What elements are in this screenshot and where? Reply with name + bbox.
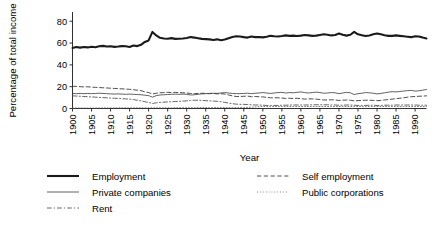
legend-label-private-companies: Private companies (92, 187, 171, 198)
x-tick-label: 1945 (239, 115, 249, 135)
x-tick-label: 1940 (220, 115, 230, 135)
x-tick-label: 1965 (315, 115, 325, 135)
x-tick-label: 1925 (163, 115, 173, 135)
legend-label-employment: Employment (92, 171, 146, 182)
x-tick-label: 1980 (372, 115, 382, 135)
x-tick-label: 1990 (410, 115, 420, 135)
x-axis-title: Year (240, 152, 260, 163)
x-tick-label: 1935 (201, 115, 211, 135)
x-tick-label: 1975 (353, 115, 363, 135)
chart-figure: 0204060801900190519101915192019251930193… (0, 0, 442, 234)
x-tick-label: 1985 (391, 115, 401, 135)
x-tick-label: 1955 (277, 115, 287, 135)
legend-label-rent: Rent (92, 203, 113, 214)
y-tick-label: 20 (57, 82, 67, 92)
y-tick-label: 0 (62, 104, 67, 114)
x-tick-label: 1960 (296, 115, 306, 135)
x-tick-label: 1950 (258, 115, 268, 135)
x-tick-label: 1900 (68, 115, 78, 135)
y-tick-label: 40 (57, 60, 67, 70)
legend-label-self-employment: Self employment (302, 171, 374, 182)
x-tick-label: 1930 (182, 115, 192, 135)
y-axis-title: Percentage of total income (7, 3, 18, 117)
y-tick-label: 60 (57, 38, 67, 48)
x-tick-label: 1920 (144, 115, 154, 135)
legend-label-public-corporations: Public corporations (302, 187, 384, 198)
x-tick-label: 1970 (334, 115, 344, 135)
x-tick-label: 1905 (87, 115, 97, 135)
x-tick-label: 1915 (125, 115, 135, 135)
line-chart: 0204060801900190519101915192019251930193… (0, 0, 442, 234)
y-tick-label: 80 (57, 17, 67, 27)
x-tick-label: 1910 (106, 115, 116, 135)
